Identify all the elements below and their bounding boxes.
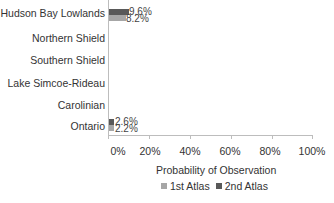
legend-label-1st-atlas: 1st Atlas [170, 180, 210, 192]
x-tick-0 [108, 135, 109, 139]
legend: 1st Atlas 2nd Atlas [161, 180, 268, 192]
category-label-hudson-bay-lowlands: Hudson Bay Lowlands [1, 7, 105, 19]
category-label-lake-simcoe-rideau: Lake Simcoe-Rideau [8, 77, 105, 89]
bar-label-ontario-1st-atlas: 2.2% [115, 125, 138, 133]
x-tick-label-80: 80% [259, 145, 280, 157]
bar-chart: Hudson Bay Lowlands Northern Shield Sout… [0, 0, 334, 203]
bar-ontario-1st-atlas [109, 125, 114, 131]
x-tick-label-40: 40% [179, 145, 200, 157]
x-tick-label-20: 20% [139, 145, 160, 157]
category-label-southern-shield: Southern Shield [30, 54, 105, 66]
legend-swatch-2nd-atlas [216, 183, 222, 189]
x-tick-80 [272, 135, 273, 139]
x-tick-label-0: 0% [110, 145, 125, 157]
category-label-ontario: Ontario [71, 120, 105, 132]
x-tick-100 [312, 135, 313, 139]
x-tick-label-100: 100% [299, 145, 326, 157]
x-axis [108, 135, 313, 136]
bar-hudson-bay-1st-atlas [109, 15, 126, 21]
x-tick-60 [231, 135, 232, 139]
category-label-northern-shield: Northern Shield [32, 32, 105, 44]
legend-swatch-1st-atlas [161, 183, 167, 189]
x-axis-title: Probability of Observation [156, 164, 276, 176]
category-label-carolinian: Carolinian [58, 99, 105, 111]
x-tick-label-60: 60% [219, 145, 240, 157]
legend-label-2nd-atlas: 2nd Atlas [225, 180, 268, 192]
x-tick-40 [190, 135, 191, 139]
x-tick-20 [149, 135, 150, 139]
bar-label-hudson-bay-1st-atlas: 8.2% [126, 15, 149, 23]
